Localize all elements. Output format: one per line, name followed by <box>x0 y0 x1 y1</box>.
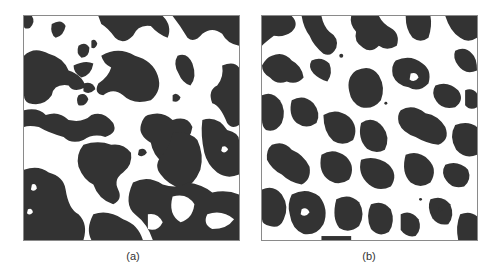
caption-a: (a) <box>118 250 148 262</box>
panel-b-image <box>261 15 478 241</box>
panel-a-image <box>23 15 240 241</box>
caption-b: (b) <box>354 250 384 262</box>
microstructure-a <box>24 16 239 240</box>
microstructure-b <box>262 16 477 240</box>
